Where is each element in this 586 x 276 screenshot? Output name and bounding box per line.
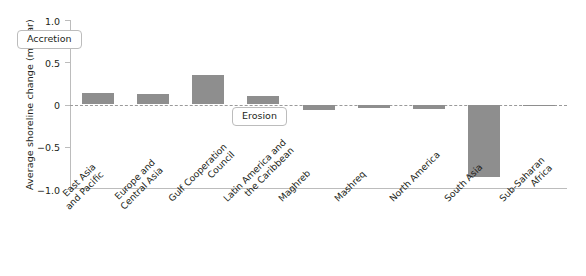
x-tick-1	[125, 189, 126, 193]
y-tick-neg1.0: −1.0	[65, 189, 70, 190]
bar-sub-saharan-africa	[523, 105, 555, 106]
annotation-accretion-label: Accretion	[27, 33, 72, 44]
x-tick-5	[346, 189, 347, 193]
bar-latin-america-and-the-caribbean	[247, 96, 279, 104]
bar-east-asia-and-pacific	[82, 93, 114, 104]
annotation-accretion: Accretion	[17, 30, 82, 49]
shoreline-change-bar-chart: Average shoreline change (m/year) 1.0 0.…	[0, 0, 586, 276]
y-tick-label-0: 0	[54, 100, 60, 111]
bar-gulf-cooperation-council	[192, 75, 224, 104]
y-tick-1.0: 1.0	[65, 20, 70, 21]
y-tick-label-neg0.5: −0.5	[37, 142, 60, 153]
x-tick-6	[401, 189, 402, 193]
y-tick-0.5: 0.5	[65, 62, 70, 63]
bar-south-asia	[468, 105, 500, 178]
x-tick-2	[180, 189, 181, 193]
x-tick-8	[512, 189, 513, 193]
x-tick-3	[236, 189, 237, 193]
plot-area: 1.0 0.5 0 −0.5 −1.0	[70, 20, 567, 189]
x-tick-7	[457, 189, 458, 193]
annotation-erosion-label: Erosion	[242, 110, 277, 121]
x-axis-line	[70, 188, 567, 189]
y-tick-label-1.0: 1.0	[45, 15, 60, 26]
bar-maghreb	[303, 105, 335, 111]
y-tick-label-0.5: 0.5	[45, 57, 60, 68]
y-tick-neg0.5: −0.5	[65, 147, 70, 148]
x-tick-4	[291, 189, 292, 193]
y-tick-label-neg1.0: −1.0	[37, 184, 60, 195]
bar-europe-and-central-asia	[137, 94, 169, 104]
annotation-erosion: Erosion	[232, 107, 287, 126]
bar-north-america	[413, 105, 445, 110]
bar-mashreq	[358, 105, 390, 108]
